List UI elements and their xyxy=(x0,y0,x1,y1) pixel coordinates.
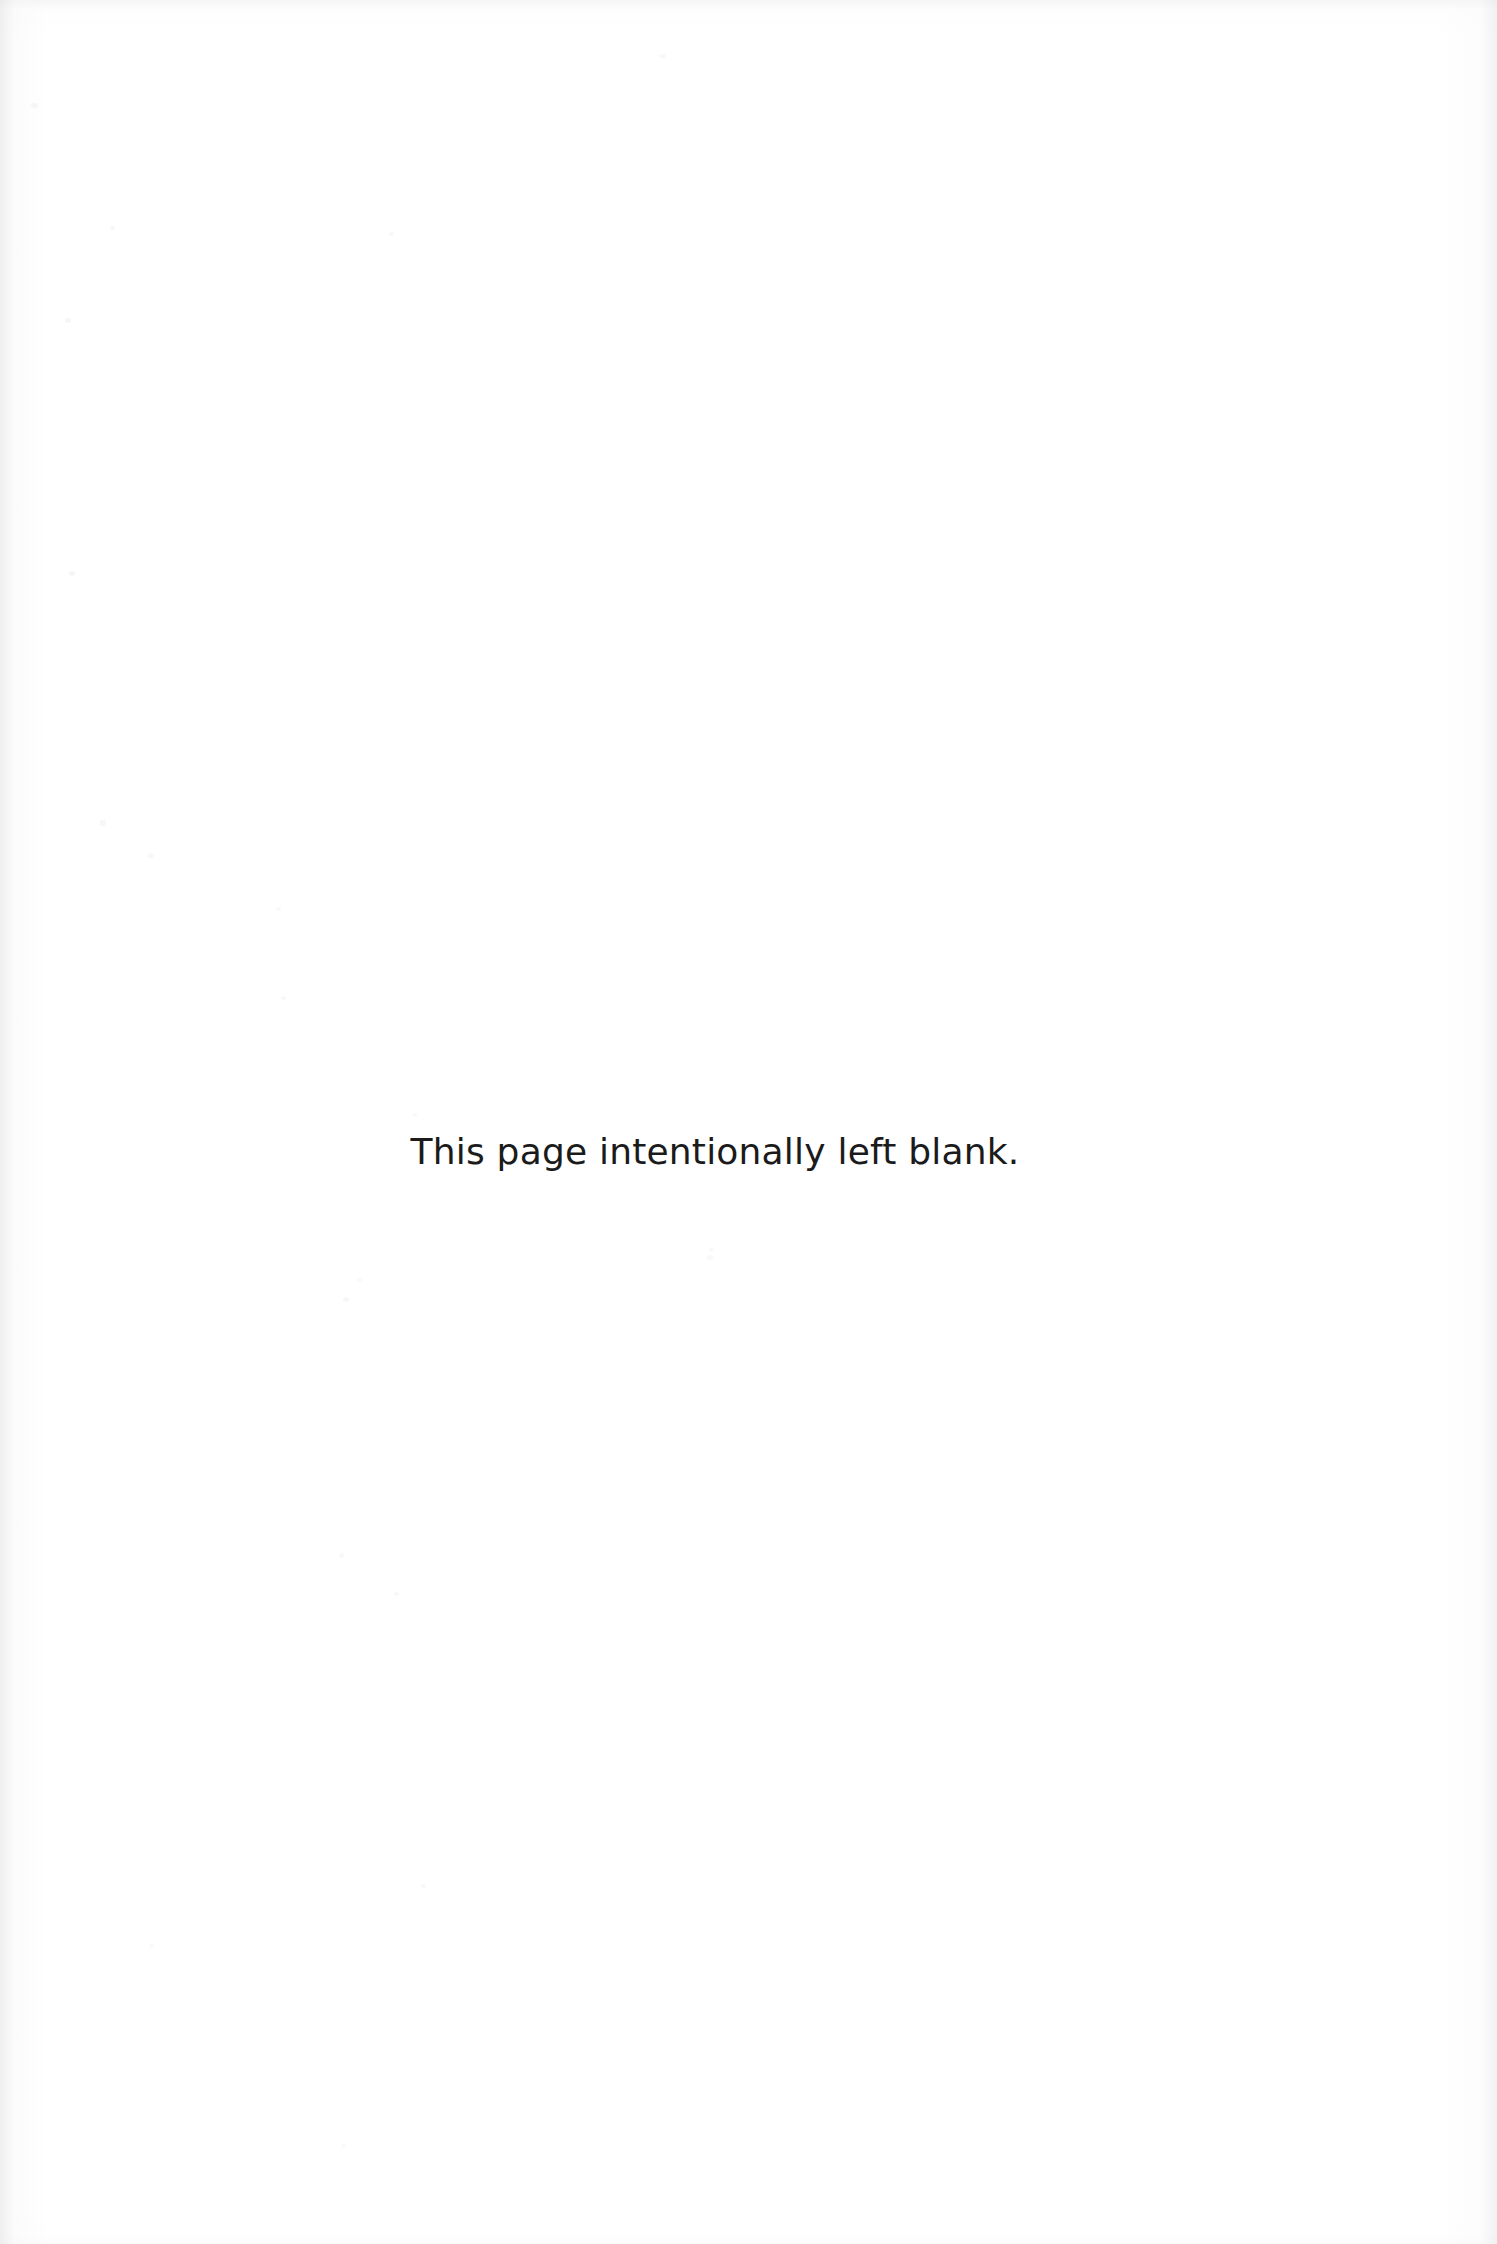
page-intentionally-left-blank-text: This page intentionally left blank. xyxy=(0,1131,1497,1173)
scan-speck xyxy=(707,1255,713,1260)
scan-speck xyxy=(421,1884,426,1888)
scan-speck xyxy=(660,54,666,58)
scan-speck xyxy=(389,232,394,236)
scan-speck xyxy=(69,571,75,576)
scan-speck xyxy=(149,1944,154,1948)
paper-edge-vignette xyxy=(0,0,1497,2244)
scan-speck xyxy=(276,907,281,911)
scan-speck xyxy=(148,853,154,858)
scan-speck xyxy=(281,996,286,1000)
scan-speck xyxy=(110,226,115,230)
scan-speck xyxy=(100,820,106,826)
scan-speck xyxy=(341,2144,346,2148)
scan-speck xyxy=(709,1248,714,1252)
scan-speck xyxy=(394,1592,399,1596)
scan-speck xyxy=(357,1278,362,1282)
scan-speck xyxy=(339,1553,344,1558)
scan-speck xyxy=(31,103,38,108)
document-page: This page intentionally left blank. xyxy=(0,0,1497,2244)
scan-speck xyxy=(65,318,71,323)
scan-speck xyxy=(413,1113,418,1117)
scan-speck xyxy=(343,1297,349,1302)
